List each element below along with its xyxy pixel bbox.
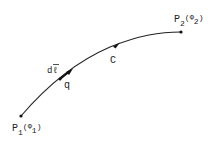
point-p2-dot xyxy=(179,30,182,33)
point-p1-dot xyxy=(19,114,22,117)
charge-q-dot xyxy=(59,78,62,81)
label-p1: P1(Φ1) xyxy=(12,122,41,137)
label-curve-c: C xyxy=(110,55,116,66)
label-line-element: dℓ xyxy=(47,66,58,76)
label-charge-q: q xyxy=(64,80,70,91)
path-integral-diagram: P2(Φ2) C dℓ q P1(Φ1) xyxy=(0,0,224,144)
label-p2: P2(Φ2) xyxy=(174,13,203,28)
curve-c xyxy=(21,32,181,116)
